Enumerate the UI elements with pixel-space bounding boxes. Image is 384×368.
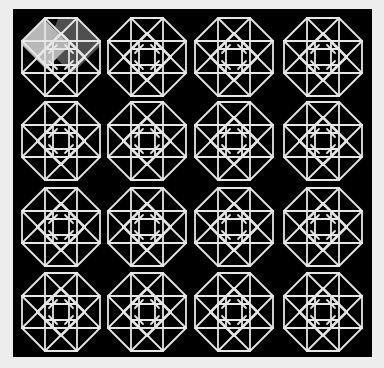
- octagon-pattern-grid: [0, 0, 384, 368]
- octagon-star-cell: [22, 188, 100, 266]
- octagon-star-cell: [284, 18, 362, 96]
- octagon-star-cell: [284, 102, 362, 180]
- octagon-star-cell: [22, 102, 100, 180]
- octagon-star-cell: [284, 273, 362, 351]
- octagon-star-cell: [22, 273, 100, 351]
- octagon-star-cell: [108, 188, 186, 266]
- octagon-star-cell: [108, 18, 186, 96]
- octagon-star-cell: [22, 18, 100, 96]
- octagon-star-cell: [108, 102, 186, 180]
- octagon-star-cell: [284, 188, 362, 266]
- octagon-star-cell: [195, 188, 273, 266]
- octagon-star-cell: [195, 273, 273, 351]
- octagon-star-cell: [195, 102, 273, 180]
- octagon-star-cell: [195, 18, 273, 96]
- octagon-star-cell: [108, 273, 186, 351]
